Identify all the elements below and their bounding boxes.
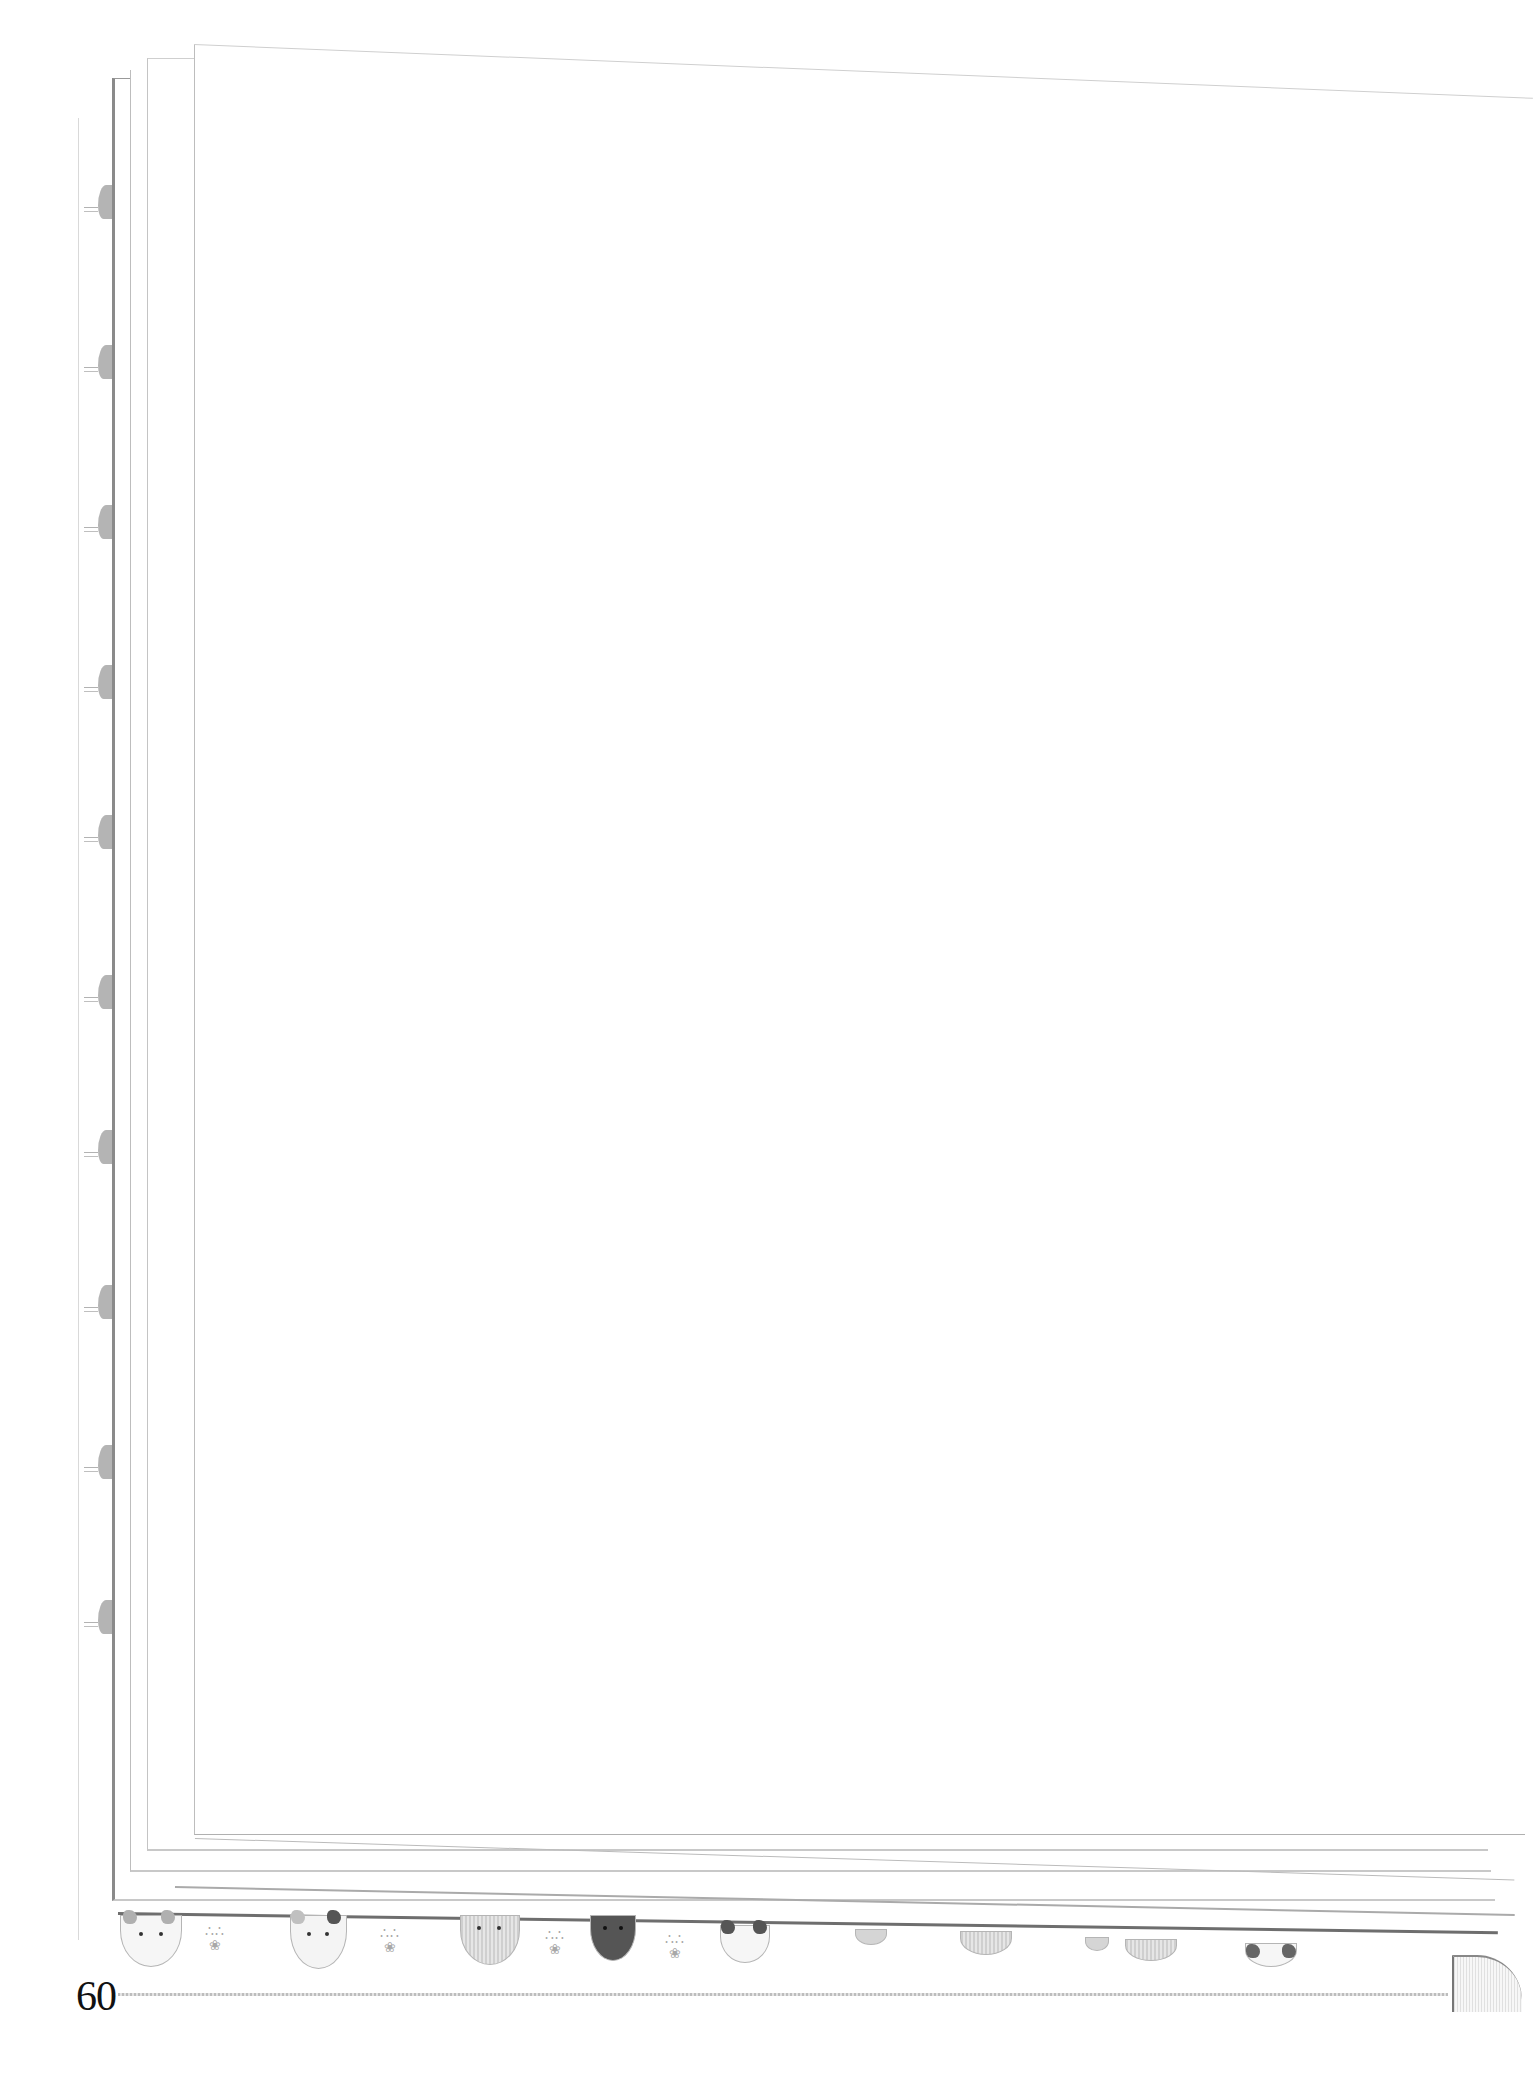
cat-face-icon (720, 1925, 770, 1963)
cat-border-strip: ∴∴❀ ∴∴❀ ∴∴❀ ∴∴❀ (110, 1915, 1450, 1995)
cat-face-icon (590, 1915, 636, 1961)
blank-page (194, 44, 1525, 1835)
paw-print-icon: ∴∴❀ (545, 1929, 565, 1957)
cat-face-icon (1125, 1939, 1177, 1961)
cat-silhouette-icon (98, 345, 112, 379)
cat-face-icon (1085, 1937, 1109, 1951)
cat-face-icon (960, 1931, 1012, 1955)
cat-face-icon (1245, 1943, 1297, 1967)
cat-face-icon (120, 1915, 182, 1967)
page-number: 60 (76, 1975, 116, 2017)
cat-silhouette-icon (98, 975, 112, 1009)
paw-print-icon: ∴∴❀ (205, 1925, 225, 1953)
paw-print-icon: ∴∴❀ (665, 1933, 685, 1961)
cat-silhouette-icon (98, 665, 112, 699)
cat-silhouette-icon (98, 505, 112, 539)
paw-print-icon: ∴∴❀ (380, 1927, 400, 1955)
cat-silhouette-icon (98, 1600, 112, 1634)
page-bottom-rule (118, 1993, 1448, 1996)
cat-face-icon (855, 1929, 887, 1945)
cat-face-icon (460, 1915, 520, 1965)
bookmark-ribbon (1452, 1955, 1522, 2012)
cat-silhouette-icon (98, 1285, 112, 1319)
cat-face-icon (290, 1915, 347, 1969)
cat-silhouette-icon (98, 1445, 112, 1479)
cat-silhouette-icon (98, 1130, 112, 1164)
cat-silhouette-icon (98, 815, 112, 849)
cat-silhouette-icon (98, 185, 112, 219)
